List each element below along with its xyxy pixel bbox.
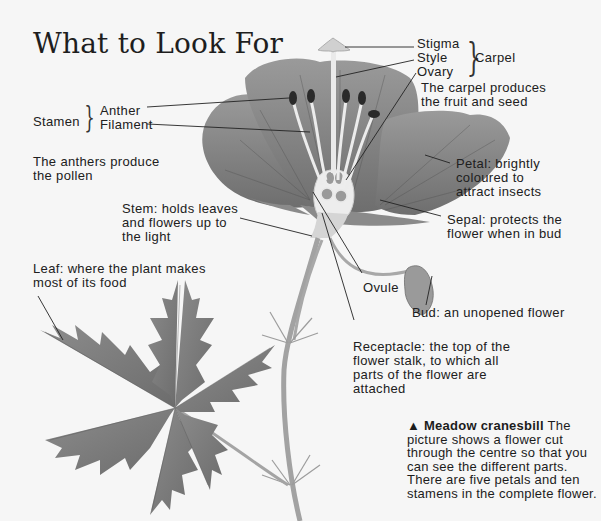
label-receptacle-4: attached [353,382,406,396]
label-receptacle-3: parts of the flower are [353,368,487,382]
label-ovule: Ovule [363,281,399,295]
anther [289,91,297,105]
label-petal-1: Petal: brightly [456,157,540,171]
label-stamen: Stamen [33,115,80,129]
label-petal-2: coloured to [456,171,524,185]
label-anther: Anther [100,104,140,118]
label-petal-3: attract insects [456,185,541,199]
label-leaf-2: most of its food [33,276,127,290]
label-sepal-1: Sepal: protects the [447,213,562,227]
style [331,48,336,173]
label-carpel-note-1: The carpel produces [421,81,546,95]
label-stem-1: Stem: holds leaves [122,202,238,216]
label-carpel-note-2: the fruit and seed [421,95,528,109]
label-carpel: Carpel [475,51,515,65]
label-anther-note-1: The anthers produce [33,155,160,169]
page-title: What to Look For [33,27,283,60]
figure-caption: ▲ Meadow cranesbill The picture shows a … [407,419,597,501]
diagram-page: What to Look For Stigma Style Ovary } Ca… [0,0,601,521]
label-style: Style [417,51,448,65]
label-stigma: Stigma [417,37,460,51]
label-receptacle-1: Receptacle: the top of the [353,340,510,354]
label-bud: Bud: an unopened flower [412,306,565,320]
label-anther-note-2: the pollen [33,169,93,183]
label-filament: Filament [100,118,153,132]
label-leaf-1: Leaf: where the plant makes [33,262,206,276]
stigma [318,38,350,52]
label-receptacle-2: flower stalk, to which all [353,354,499,368]
stamen-brace-icon: } [84,100,95,134]
label-stem-2: and flowers up to [122,216,227,230]
label-ovary: Ovary [417,65,453,79]
label-stem-3: the light [122,230,171,244]
label-sepal-2: flower when in bud [447,227,562,241]
